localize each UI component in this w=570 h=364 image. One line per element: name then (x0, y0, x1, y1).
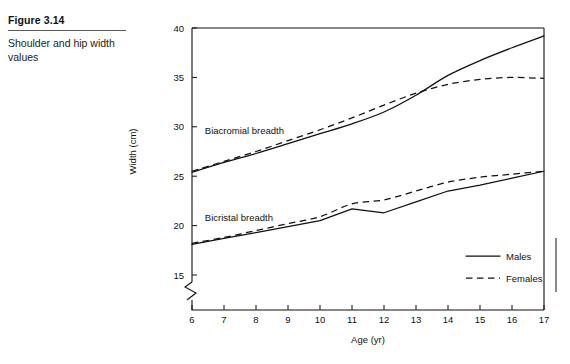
x-tick-label: 11 (347, 314, 357, 325)
y-tick-label: 35 (173, 72, 184, 83)
x-tick-label: 16 (507, 314, 518, 325)
legend-label-females: Females (506, 273, 543, 284)
y-axis-ticks (192, 28, 197, 275)
y-axis-break-icon (185, 282, 196, 300)
figure-page: Figure 3.14 Shoulder and hip width value… (0, 0, 570, 364)
annotation-bicristal: Bicristal breadth (205, 212, 273, 223)
x-axis-tick-labels: 67891011121314151617 (189, 314, 549, 325)
y-axis-title: Width (cm) (127, 129, 138, 175)
x-axis-title: Age (yr) (351, 334, 385, 345)
x-tick-label: 17 (539, 314, 550, 325)
y-tick-label: 40 (173, 23, 184, 34)
legend-label-males: Males (506, 251, 532, 262)
y-tick-label: 20 (173, 220, 184, 231)
chart-axes (185, 28, 544, 310)
series-line-bicristal-breadth-males (192, 171, 544, 244)
x-tick-label: 8 (253, 314, 258, 325)
y-tick-label: 15 (173, 270, 184, 281)
chart-container: 67891011121314151617 152025303540 Age (y… (0, 0, 570, 364)
y-tick-label: 30 (173, 121, 184, 132)
line-chart: 67891011121314151617 152025303540 Age (y… (0, 0, 570, 364)
y-axis-tick-labels: 152025303540 (173, 23, 184, 281)
x-tick-label: 10 (315, 314, 326, 325)
x-tick-label: 6 (189, 314, 194, 325)
annotation-biacromial: Biacromial breadth (205, 125, 284, 136)
x-tick-label: 13 (411, 314, 422, 325)
x-tick-label: 9 (285, 314, 290, 325)
x-tick-label: 15 (475, 314, 486, 325)
x-tick-label: 12 (379, 314, 390, 325)
axis-frame (192, 28, 544, 310)
x-tick-label: 14 (443, 314, 454, 325)
chart-legend: Males Females (466, 238, 556, 292)
y-tick-label: 25 (173, 171, 184, 182)
series-line-biacromial-breadth-males (192, 36, 544, 172)
x-tick-label: 7 (221, 314, 226, 325)
x-axis-ticks (192, 305, 544, 310)
